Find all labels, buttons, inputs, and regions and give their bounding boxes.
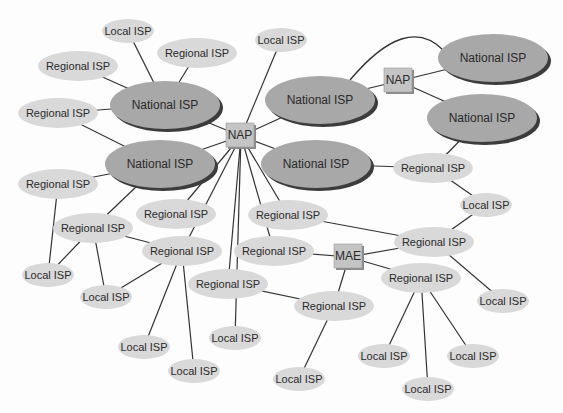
local-isp-node: Local ISP [402,377,454,401]
local-isp-node: Local ISP [447,344,499,368]
node-label: Local ISP [170,365,217,377]
node-label: National ISP [460,51,527,65]
local-isp-node: Local ISP [273,367,325,391]
node-label: Local ISP [275,373,322,385]
node-label: Local ISP [479,295,526,307]
regional-isp-node: Regional ISP [38,51,118,81]
national-isp-node: National ISP [110,81,223,132]
node-label: Local ISP [360,350,407,362]
regional-isp-node: Regional ISP [157,38,237,68]
node-label: Regional ISP [256,209,320,221]
regional-isp-node: Regional ISP [248,200,328,230]
nap-exchange-node: NAP [226,123,256,149]
mae-exchange-node: MAE [334,244,364,270]
nap-exchange-node: NAP [384,68,414,94]
national-isp-node: National ISP [438,34,551,85]
connection-line [182,251,194,371]
node-label: Regional ISP [26,178,90,190]
node-label: National ISP [132,98,199,112]
local-isp-node: Local ISP [477,289,529,313]
node-label: National ISP [449,111,516,125]
national-isp-node: National ISP [261,140,374,191]
node-label: Local ISP [104,25,151,37]
regional-isp-node: Regional ISP [142,236,222,266]
node-label: Regional ISP [401,162,465,174]
local-isp-node: Local ISP [118,335,170,359]
node-label: National ISP [287,93,354,107]
local-isp-node: Local ISP [22,263,74,287]
local-isp-node: Local ISP [358,344,410,368]
node-label: Regional ISP [389,272,453,284]
node-label: Regional ISP [165,47,229,59]
isp-hierarchy-diagram: Local ISPRegional ISPRegional ISPNationa… [0,0,563,413]
node-label: National ISP [127,157,194,171]
node-label: Local ISP [211,332,258,344]
regional-isp-node: Regional ISP [393,153,473,183]
regional-isp-node: Regional ISP [394,227,474,257]
local-isp-node: Local ISP [168,359,220,383]
regional-isp-node: Regional ISP [18,169,98,199]
regional-isp-node: Regional ISP [188,269,268,299]
node-label: Local ISP [462,199,509,211]
regional-isp-node: Regional ISP [294,291,374,321]
node-label: Local ISP [257,34,304,46]
node-label: Local ISP [120,341,167,353]
local-isp-node: Local ISP [460,193,512,217]
regional-isp-node: Regional ISP [18,98,98,128]
node-label: Regional ISP [302,300,366,312]
node-label: Regional ISP [26,107,90,119]
node-label: Regional ISP [150,245,214,257]
regional-isp-node: Regional ISP [53,213,133,243]
local-isp-node: Local ISP [80,285,132,309]
node-label: Regional ISP [242,245,306,257]
node-label: Local ISP [24,269,71,281]
node-label: Regional ISP [61,222,125,234]
regional-isp-node: Regional ISP [381,263,461,293]
exchange-label: MAE [335,249,361,263]
national-isp-node: National ISP [105,140,218,191]
local-isp-node: Local ISP [102,19,154,43]
isp-nodes: Local ISPRegional ISPRegional ISPNationa… [18,19,551,401]
node-label: Regional ISP [46,60,110,72]
connection-line [421,278,428,389]
national-isp-node: National ISP [427,94,540,145]
local-isp-node: Local ISP [209,326,261,350]
regional-isp-node: Regional ISP [234,236,314,266]
node-label: Local ISP [449,350,496,362]
node-label: National ISP [283,157,350,171]
exchange-label: NAP [228,128,253,142]
exchange-label: NAP [386,73,411,87]
node-label: Regional ISP [144,208,208,220]
local-isp-node: Local ISP [255,28,307,52]
node-label: Local ISP [82,291,129,303]
node-label: Regional ISP [402,236,466,248]
node-label: Local ISP [404,383,451,395]
network-diagram-canvas: Local ISPRegional ISPRegional ISPNationa… [0,0,563,413]
node-label: Regional ISP [196,278,260,290]
regional-isp-node: Regional ISP [136,199,216,229]
national-isp-node: National ISP [265,76,378,127]
